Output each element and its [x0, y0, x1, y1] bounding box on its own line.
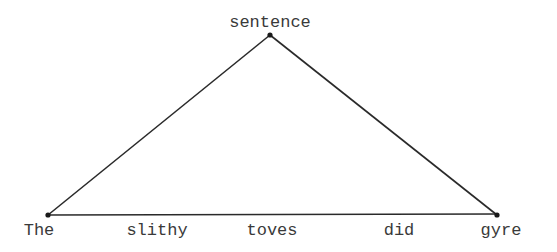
right-edge [270, 35, 497, 215]
right-node [494, 212, 499, 217]
triangle-lines [0, 0, 557, 252]
leaf-label-slithy: slithy [126, 222, 187, 239]
leaf-label-the: The [24, 222, 55, 239]
left-node [45, 212, 50, 217]
leaf-label-gyre: gyre [481, 222, 522, 239]
leaf-label-toves: toves [246, 222, 297, 239]
leaf-label-did: did [384, 222, 415, 239]
root-label: sentence [229, 14, 311, 31]
apex-node [267, 32, 272, 37]
base-edge [48, 214, 497, 215]
left-edge [48, 35, 270, 215]
parse-tree-diagram: sentence The slithy toves did gyre [0, 0, 557, 252]
